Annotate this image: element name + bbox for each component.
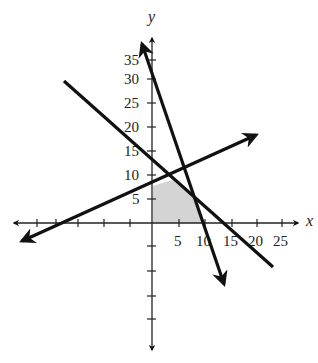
y-tick-label: 20 [124, 119, 139, 135]
y-tick-label: 35 [124, 52, 139, 68]
line-steep-decreasing [142, 44, 224, 284]
y-tick-label: 5 [132, 191, 140, 207]
x-axis-label: x [305, 212, 313, 229]
y-axis-label: y [146, 8, 156, 26]
y-tick-label: 25 [124, 95, 139, 111]
x-tick-label: 25 [273, 233, 288, 249]
y-tick-label: 10 [124, 167, 139, 183]
graph: 35 30 25 20 15 10 5 5 10 15 20 25 y x [0, 0, 318, 363]
line-increasing [22, 135, 256, 241]
y-tick-label: 30 [124, 71, 139, 87]
x-tick-label: 5 [174, 233, 182, 249]
